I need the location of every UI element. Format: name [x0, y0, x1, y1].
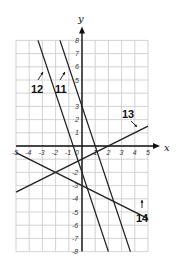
y-tick-label: -2 [72, 169, 78, 176]
y-tick-label: 6 [75, 63, 79, 70]
y-tick-label: 8 [75, 37, 79, 44]
label-line-11: 11 [55, 83, 67, 95]
y-tick-label: 3 [75, 103, 79, 110]
x-tick-label: 4 [133, 149, 137, 156]
y-tick-label: -7 [72, 235, 79, 242]
y-tick-label: 5 [75, 77, 79, 84]
y-tick-label: -4 [72, 195, 78, 202]
coordinate-plane: xy -5-4-3-2-1123458765321-2-3-4-5-6-7-80… [0, 0, 179, 270]
x-tick-label: -4 [25, 149, 31, 156]
x-tick-label: -3 [38, 149, 44, 156]
x-tick-label: 2 [105, 149, 110, 156]
x-tick-label: 3 [120, 149, 124, 156]
label-line-14: 14 [136, 212, 149, 224]
y-axis-label: y [77, 13, 84, 24]
label-line-12: 12 [31, 83, 43, 95]
x-tick-label: -1 [65, 149, 71, 156]
y-tick-label: -5 [72, 209, 78, 216]
x-tick-label: 5 [146, 149, 150, 156]
x-axis-label: x [164, 142, 170, 153]
y-tick-label: -8 [72, 248, 78, 255]
line-labels: 12111314 [31, 72, 149, 224]
x-tick-label: -2 [52, 149, 58, 156]
y-axis-arrow-icon [79, 26, 85, 33]
y-tick-label: 1 [75, 129, 79, 136]
y-tick-label: -6 [72, 222, 78, 229]
arrow-icon-head [141, 200, 144, 203]
x-tick-label: -5 [12, 149, 18, 156]
x-axis-arrow-icon [153, 143, 160, 149]
y-tick-label: 2 [74, 116, 79, 123]
label-line-13: 13 [122, 108, 134, 120]
